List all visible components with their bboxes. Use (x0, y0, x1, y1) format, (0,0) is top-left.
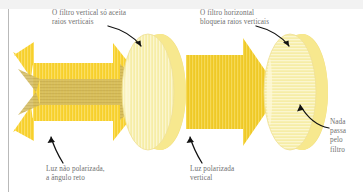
second-filter-horizontal-polarizer (264, 34, 328, 150)
label-vertical-filter: O filtro vertical só aceita raios vertic… (52, 9, 162, 27)
label-unpolarized-light: Luz não polarizada, a ângulo reto (46, 165, 166, 183)
arrowhead-unpolarized-light (48, 137, 56, 143)
diagram-canvas (0, 0, 363, 192)
arrowhead-polarized-light (187, 137, 195, 143)
label-polarized-light: Luz polarizada vertical (190, 165, 300, 183)
label-nothing-passes: Nada passa pelo filtro (330, 118, 362, 155)
label-horizontal-filter: O filtro horizontal bloqueia raios verti… (200, 9, 310, 27)
first-filter-vertical-polarizer (122, 34, 186, 150)
polarization-diagram: O filtro vertical só aceita raios vertic… (0, 0, 363, 192)
